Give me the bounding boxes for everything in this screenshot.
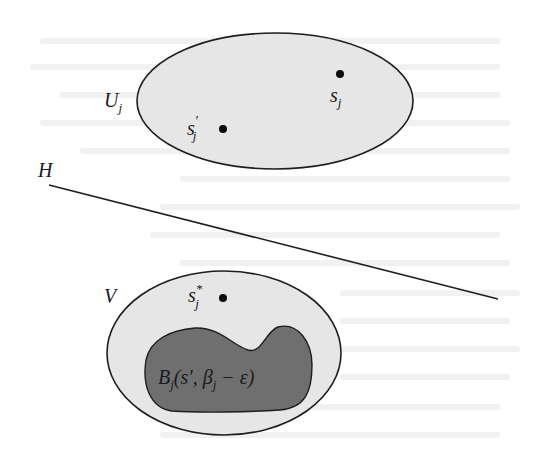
label-u-j: Uj — [104, 89, 122, 115]
point-s-prime-j — [219, 125, 227, 133]
diagram-canvas: sj s′j Uj H Bj(s′, βj − ε) s*j V — [0, 0, 540, 466]
label-h: H — [37, 159, 54, 181]
label-v: V — [104, 285, 119, 307]
point-s-j — [336, 70, 344, 78]
point-s-star-j — [219, 294, 227, 302]
region-u-j — [137, 33, 413, 169]
